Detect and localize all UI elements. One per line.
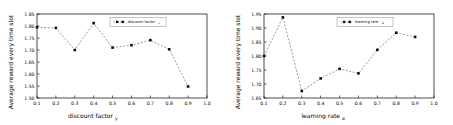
x-tick-label: 0.4: [90, 101, 97, 106]
y-axis-title: Average reward every time slot: [234, 14, 242, 109]
legend-label-text: learning rate: [355, 20, 379, 24]
x-tick-label: 0.4: [317, 101, 324, 106]
x-axis-title-group: discount factor γ: [68, 112, 118, 121]
y-tick-label: 1.85: [251, 40, 261, 45]
learning-rate-plot: Average reward every time slot 1.651.701…: [227, 0, 453, 125]
y-tick-label: 1.90: [251, 26, 261, 31]
data-point-marker: [36, 26, 39, 29]
x-tick-label: 0.7: [373, 101, 380, 106]
data-point-marker: [187, 85, 190, 88]
y-tick-label: 1.80: [251, 54, 261, 59]
y-tick-label: 1.95: [251, 12, 261, 17]
x-tick-label: 0.1: [33, 101, 40, 106]
series-markers-learning-rate: [262, 16, 416, 92]
y-tick-label: 1.75: [24, 36, 34, 41]
x-tick-label: 0.9: [184, 101, 191, 106]
data-point-marker: [149, 39, 152, 42]
legend-label-subscript: α: [382, 21, 384, 25]
x-tick-label: 1.0: [203, 101, 210, 106]
series-markers-discount-factor: [36, 22, 190, 88]
data-point-marker: [376, 49, 379, 52]
legend-marker-a: [116, 21, 118, 23]
y-tick-label: 1.65: [24, 60, 34, 65]
x-axis-title-subscript: γ: [115, 116, 118, 121]
chart-panel-learning-rate: Average reward every time slot 1.651.701…: [227, 0, 453, 125]
y-axis-title: Average reward every time slot: [7, 14, 15, 109]
y-tick-label: 1.70: [24, 48, 34, 53]
x-tick-label: 0.5: [109, 101, 116, 106]
y-tick-label: 1.80: [24, 24, 34, 29]
series-group: [262, 16, 416, 92]
x-tick-label: 0.2: [52, 101, 59, 106]
data-point-marker: [300, 90, 303, 93]
data-point-marker: [357, 72, 360, 75]
data-point-marker: [168, 48, 171, 51]
data-point-marker: [338, 68, 341, 71]
x-tick-label: 0.2: [279, 101, 286, 106]
series-group: [36, 22, 190, 88]
legend-learning-rate[interactable]: learning rate α: [337, 18, 393, 27]
x-tick-label: 0.6: [354, 101, 361, 106]
y-tick-label: 1.70: [251, 82, 261, 87]
data-point-marker: [281, 16, 284, 19]
series-line-discount-factor: [37, 23, 188, 86]
y-tick-label: 1.85: [24, 12, 34, 17]
data-point-marker: [73, 49, 76, 52]
x-tick-label: 1.0: [430, 101, 437, 106]
y-tick-label: 1.60: [24, 72, 34, 77]
x-tick-label: 0.3: [71, 101, 78, 106]
x-tick-label: 0.8: [392, 101, 399, 106]
x-tick-label: 0.8: [166, 101, 173, 106]
x-axis-title: learning rate: [301, 112, 340, 120]
y-axis-title-group: Average reward every time slot: [7, 14, 15, 109]
data-point-marker: [130, 44, 133, 47]
data-point-marker: [111, 46, 114, 49]
chart-panel-discount-factor: Average reward every time slot 1.501.551…: [0, 0, 227, 125]
x-tick-label: 0.9: [411, 101, 418, 106]
legend-marker-b: [122, 21, 124, 23]
legend-marker-a: [343, 21, 345, 23]
data-point-marker: [413, 36, 416, 39]
x-tick-label: 0.1: [260, 101, 267, 106]
data-point-marker: [319, 77, 322, 80]
x-axis-title-subscript: α: [342, 116, 345, 121]
y-tick-label: 1.75: [251, 68, 261, 73]
data-point-marker: [262, 55, 265, 58]
x-tick-label: 0.6: [128, 101, 135, 106]
y-tick-label: 1.55: [24, 84, 34, 89]
legend-label-subscript: γ: [159, 21, 161, 25]
data-point-marker: [55, 27, 58, 30]
discount-factor-plot: Average reward every time slot 1.501.551…: [0, 0, 227, 125]
figure-container: Average reward every time slot 1.501.551…: [0, 0, 453, 125]
series-line-learning-rate: [264, 17, 415, 91]
x-tick-group: 0.10.20.30.40.50.60.70.80.91.0: [260, 96, 437, 106]
legend-marker-b: [348, 21, 350, 23]
legend-discount-factor[interactable]: discount factor γ: [110, 18, 166, 27]
x-tick-label: 0.7: [147, 101, 154, 106]
legend-label-text: discount factor: [128, 20, 155, 24]
x-tick-label: 0.5: [335, 101, 342, 106]
x-axis-title: discount factor: [68, 112, 114, 119]
data-point-marker: [394, 31, 397, 34]
x-axis-title-group: learning rate α: [301, 112, 345, 121]
data-point-marker: [92, 22, 95, 25]
x-tick-label: 0.3: [298, 101, 305, 106]
y-axis-title-group: Average reward every time slot: [234, 14, 242, 109]
x-tick-group: 0.10.20.30.40.50.60.70.80.91.0: [33, 96, 210, 106]
